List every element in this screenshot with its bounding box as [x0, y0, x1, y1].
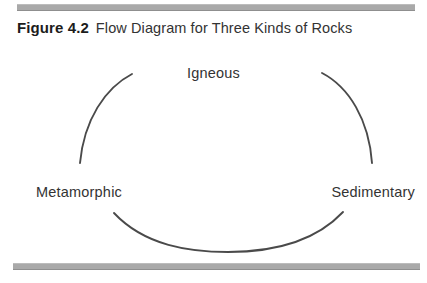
figure-number: Figure 4.2 — [17, 19, 89, 36]
arc-metamorphic-to-sedimentary-path — [114, 212, 343, 252]
bottom-rule — [13, 263, 420, 270]
arc-igneous-to-metamorphic-path — [80, 74, 132, 163]
figure-caption-text: Flow Diagram for Three Kinds of Rocks — [96, 20, 352, 36]
node-label-metamorphic: Metamorphic — [36, 183, 122, 201]
node-label-igneous: Igneous — [0, 64, 427, 82]
rock-cycle-diagram: Igneous Metamorphic Sedimentary — [0, 40, 427, 263]
node-label-sedimentary: Sedimentary — [331, 183, 415, 201]
top-rule — [17, 4, 415, 11]
figure-page: Figure 4.2Flow Diagram for Three Kinds o… — [0, 0, 427, 283]
arc-igneous-to-sedimentary-path — [322, 73, 372, 163]
figure-caption: Figure 4.2Flow Diagram for Three Kinds o… — [17, 17, 417, 39]
